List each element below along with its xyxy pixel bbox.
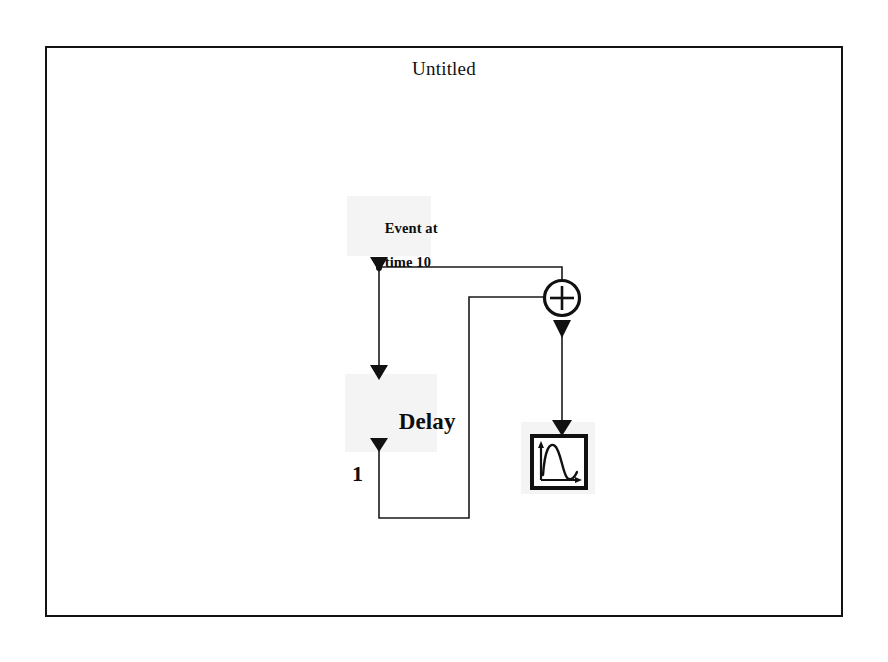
delay-label-line1: Delay [399,409,456,434]
arrowhead-down-icon [370,365,388,380]
event-source-label-line2: time 10 [385,254,431,270]
delay-label-line2: 1 [352,461,456,487]
scope-block-glyph[interactable] [532,436,586,488]
scanned-page: Untitled [0,0,888,662]
arrowhead-down-icon [553,320,571,338]
event-source-block-label[interactable]: Event at time 10 [355,203,438,289]
arrowhead-down-icon [552,420,572,436]
block-diagram-canvas[interactable]: Event at time 10 Delay 1 [47,48,845,619]
event-source-label-line1: Event at [385,220,438,236]
sum-block-glyph[interactable] [545,281,580,316]
delay-block-label[interactable]: Delay 1 [352,381,456,542]
model-window: Untitled [45,46,843,617]
